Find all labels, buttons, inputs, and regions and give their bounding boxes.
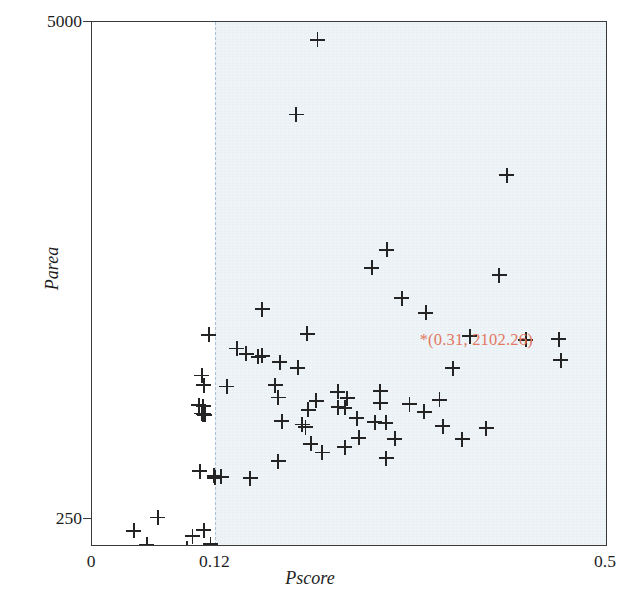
y-axis-tick-mark-bottom <box>83 518 91 519</box>
data-point-marker <box>150 510 165 525</box>
cutoff-line-vertical <box>215 22 216 545</box>
x-axis-title: Pscore <box>0 568 620 589</box>
y-axis-tick-label-top: 5000 <box>10 11 82 32</box>
data-point-marker <box>192 464 207 479</box>
data-point-marker <box>194 406 209 421</box>
plot-area: *(0.31, 2102.26) <box>91 21 607 546</box>
scatter-plot-figure: 5000 250 Parea *(0.31, 2102.26) 0 0.12 0… <box>0 0 620 602</box>
data-point-marker <box>201 327 216 342</box>
data-point-marker <box>180 541 195 546</box>
data-point-marker <box>197 407 212 422</box>
data-point-marker <box>196 407 211 422</box>
data-point-marker <box>196 399 211 414</box>
data-point-marker <box>196 378 211 393</box>
threshold-line-horizontal <box>92 545 606 546</box>
data-point-marker <box>185 529 200 544</box>
data-point-marker <box>196 523 211 538</box>
y-axis-title: Parea <box>42 209 63 329</box>
point-annotation-label: *(0.31, 2102.26) <box>420 330 533 350</box>
data-point-marker <box>194 368 209 383</box>
y-axis-tick-mark-top <box>83 21 91 22</box>
data-point-marker <box>191 398 206 413</box>
data-point-marker <box>126 523 141 538</box>
shaded-selection-region <box>215 22 606 545</box>
y-axis-tick-label-bottom: 250 <box>10 508 82 529</box>
paper-grain-overlay <box>215 22 606 545</box>
